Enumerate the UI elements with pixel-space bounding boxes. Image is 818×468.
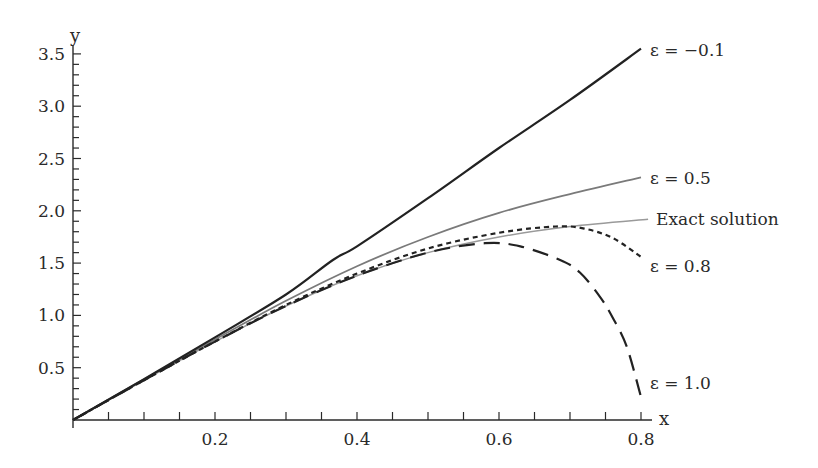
y-tick-label: 3.0 bbox=[38, 96, 65, 116]
x-tick-label: 0.6 bbox=[485, 429, 512, 449]
series-label: ε = −0.1 bbox=[650, 40, 725, 60]
series-line-3 bbox=[73, 226, 641, 420]
series-label: Exact solution bbox=[656, 209, 779, 229]
series-layer bbox=[73, 49, 648, 420]
series-line-2 bbox=[73, 219, 648, 420]
series-label: ε = 0.5 bbox=[650, 168, 711, 188]
y-axis-label: y bbox=[69, 25, 81, 46]
series-line-0 bbox=[73, 49, 641, 420]
x-tick-label: 0.4 bbox=[343, 429, 370, 449]
series-line-4 bbox=[73, 243, 641, 420]
y-tick-label: 2.5 bbox=[38, 149, 65, 169]
series-label: ε = 1.0 bbox=[650, 373, 711, 393]
y-tick-label: 1.0 bbox=[38, 305, 65, 325]
x-tick-label: 0.2 bbox=[201, 429, 228, 449]
y-tick-label: 3.5 bbox=[38, 44, 65, 64]
y-tick-label: 1.5 bbox=[38, 253, 65, 273]
x-axis-label: x bbox=[659, 408, 669, 429]
x-tick-label: 0.8 bbox=[627, 429, 654, 449]
y-tick-label: 0.5 bbox=[38, 358, 65, 378]
y-ticks: 0.51.01.52.02.53.03.5 bbox=[38, 44, 81, 410]
x-ticks: 0.20.40.60.8 bbox=[109, 412, 655, 449]
chart: 0.20.40.60.8 0.51.01.52.02.53.03.5 x y ε… bbox=[0, 0, 818, 468]
y-tick-label: 2.0 bbox=[38, 201, 65, 221]
series-line-1 bbox=[73, 177, 641, 420]
series-label: ε = 0.8 bbox=[650, 256, 711, 276]
series-labels: ε = −0.1ε = 0.5Exact solutionε = 0.8ε = … bbox=[650, 40, 779, 393]
